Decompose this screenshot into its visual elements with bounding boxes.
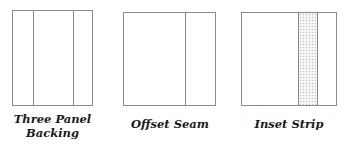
inset-strip-box <box>241 12 337 106</box>
inset-strip-stippled <box>298 13 318 105</box>
three-panel-label: Three Panel Backing <box>0 112 105 140</box>
three-panel-label-line2: Backing <box>0 126 105 140</box>
inset-strip-label: Inset Strip <box>234 117 344 131</box>
seam-line-left <box>33 11 34 105</box>
seam-line-right <box>73 11 74 105</box>
offset-seam-line <box>185 13 186 105</box>
three-panel-label-line1: Three Panel <box>0 112 105 126</box>
offset-seam-label: Offset Seam <box>115 117 225 131</box>
offset-seam-box <box>123 12 216 106</box>
three-panel-box <box>12 10 93 106</box>
